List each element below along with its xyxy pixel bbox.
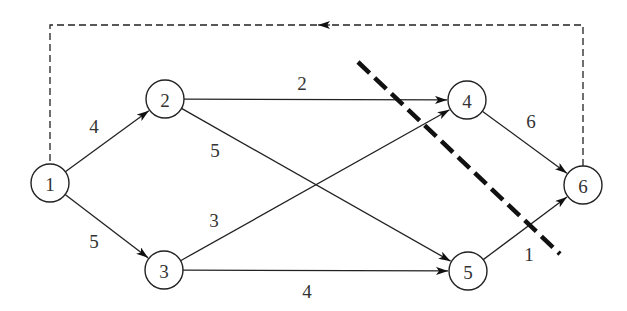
edge-weight-4-6: 6 bbox=[526, 111, 536, 132]
edge-2-to-4 bbox=[184, 99, 447, 100]
edge-weight-1-2: 4 bbox=[89, 116, 99, 137]
edge-3-to-5 bbox=[183, 270, 448, 271]
edge-weight-5-6: 1 bbox=[524, 244, 534, 265]
edge-weight-2-4: 2 bbox=[297, 73, 307, 94]
edge-1-to-2 bbox=[65, 111, 149, 172]
edge-weight-3-5: 4 bbox=[302, 281, 312, 302]
edge-1-to-3 bbox=[65, 195, 148, 258]
edge-4-to-6 bbox=[482, 111, 567, 173]
node-label: 1 bbox=[45, 174, 55, 195]
network-diagram: 45253461 123456 bbox=[0, 0, 627, 311]
node-2: 2 bbox=[146, 80, 184, 118]
node-1: 1 bbox=[31, 164, 69, 202]
node-label: 5 bbox=[463, 262, 473, 283]
edge-weight-1-3: 5 bbox=[89, 231, 99, 252]
feedback-edge-6-to-1 bbox=[50, 25, 583, 166]
node-5: 5 bbox=[449, 252, 487, 290]
node-6: 6 bbox=[564, 166, 602, 204]
edge-weight-3-4: 3 bbox=[209, 210, 219, 231]
node-label: 4 bbox=[462, 91, 472, 112]
node-label: 3 bbox=[159, 261, 169, 282]
node-3: 3 bbox=[145, 251, 183, 289]
node-label: 6 bbox=[578, 176, 588, 197]
node-4: 4 bbox=[448, 81, 486, 119]
node-label: 2 bbox=[160, 90, 170, 111]
edge-weight-2-5: 5 bbox=[210, 140, 220, 161]
edges bbox=[65, 99, 567, 271]
